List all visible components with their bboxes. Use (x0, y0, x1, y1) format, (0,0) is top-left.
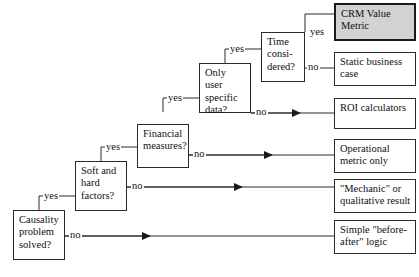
edge-label-time-no: no (307, 61, 320, 72)
edge-label-user-data-no: no (255, 106, 268, 117)
edge-label-financial-yes: yes (167, 92, 183, 103)
outcome-crm-value-metric[interactable]: CRM Value Metric (334, 3, 416, 41)
decision-causality[interactable]: Causality problem solved? (13, 210, 65, 260)
outcome-mechanic-qualitative-result[interactable]: "Mechanic" or qualitative result (334, 179, 416, 213)
outcome-roi-calculators[interactable]: ROI calculators (334, 98, 416, 129)
decision-financial-measures[interactable]: Financial measures? (137, 124, 189, 168)
edge-label-time-yes: yes (309, 26, 325, 37)
decision-only-user-specific-data[interactable]: Only user specific data? (199, 63, 251, 113)
edge-label-causality-yes: yes (43, 190, 59, 201)
edge-label-causality-no: no (69, 229, 82, 240)
outcome-static-business-case[interactable]: Static business case (334, 52, 416, 86)
edge-label-soft-hard-no: no (131, 180, 144, 191)
outcome-operational-metric-only[interactable]: Operational metric only (334, 139, 416, 173)
flowchart-canvas: Causality problem solved? Soft and hard … (0, 0, 419, 277)
edge-label-financial-no: no (193, 148, 206, 159)
outcome-simple-before-after-logic[interactable]: Simple "before- after" logic (334, 220, 416, 254)
decision-soft-hard-factors[interactable]: Soft and hard factors? (75, 161, 127, 211)
edge-label-user-data-yes: yes (229, 43, 245, 54)
decision-time-considered[interactable]: Time consi- dered? (261, 32, 305, 82)
edge-label-soft-hard-yes: yes (105, 141, 121, 152)
